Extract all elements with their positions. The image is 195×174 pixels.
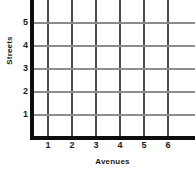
x-tick-label-4: 4 — [113, 140, 127, 151]
y-tick-label-2: 2 — [17, 86, 28, 97]
y-tick-label-4: 4 — [17, 40, 28, 51]
gridline-street-4 — [31, 45, 195, 47]
x-tick-label-5: 5 — [137, 140, 151, 151]
x-tick-label-6: 6 — [161, 140, 175, 151]
coordinate-grid-chart: 1 2 3 4 5 6 1 2 3 4 5 Avenues Streets — [0, 0, 195, 174]
y-tick-label-3: 3 — [17, 63, 28, 74]
x-axis-title: Avenues — [30, 157, 195, 166]
y-axis-spine — [30, 0, 34, 140]
plot-area: 1 2 3 4 5 6 1 2 3 4 5 Avenues Streets — [0, 0, 195, 174]
y-tick-label-1: 1 — [17, 109, 28, 120]
gridline-street-1 — [31, 114, 195, 116]
x-tick-label-2: 2 — [65, 140, 79, 151]
gridline-street-5 — [31, 22, 195, 24]
gridline-street-2 — [31, 91, 195, 93]
x-tick-label-1: 1 — [41, 140, 55, 151]
y-axis-title: Streets — [5, 20, 14, 82]
x-tick-label-3: 3 — [89, 140, 103, 151]
y-tick-label-5: 5 — [17, 17, 28, 28]
gridline-street-3 — [31, 68, 195, 70]
